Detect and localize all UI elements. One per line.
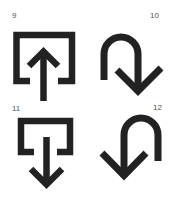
icon-sheet [0, 0, 174, 210]
u-turn-down-left-icon [102, 118, 158, 177]
u-turn-down-right-icon [104, 37, 161, 92]
share-upload-icon [17, 35, 73, 101]
download-box-icon [21, 121, 70, 185]
